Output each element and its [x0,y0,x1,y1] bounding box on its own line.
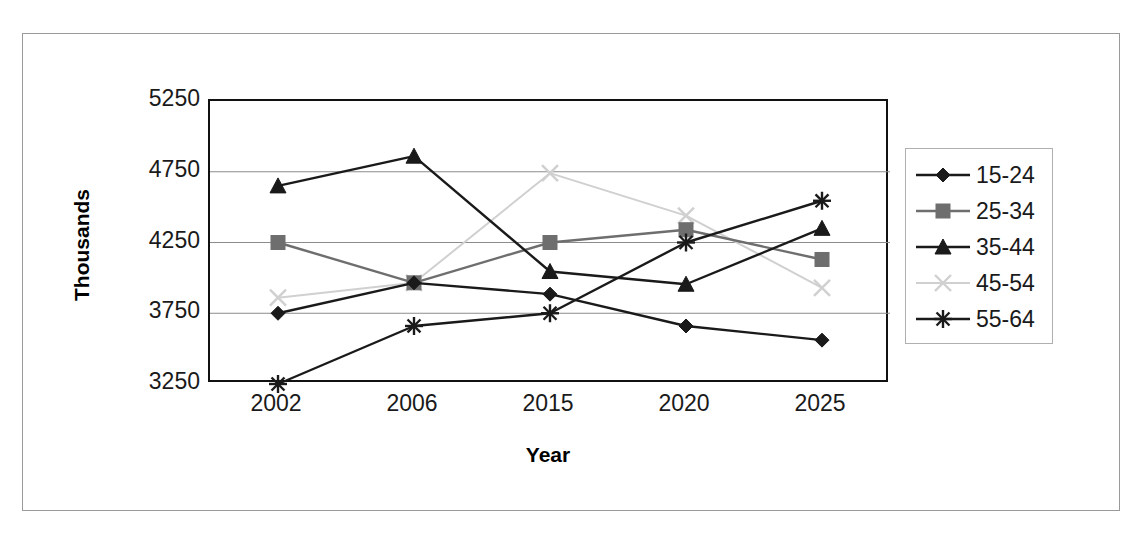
x-tick-label: 2020 [658,392,709,415]
legend-item-45-54[interactable]: 45-54 [914,265,1046,301]
data-point-marker [815,333,829,347]
legend-label: 55-64 [976,308,1035,331]
legend-marker-asterisk-icon [914,307,972,331]
data-point-marker [934,310,952,328]
data-point-marker [678,208,694,224]
y-axis-tick-labels: 52504750425037503250 [105,0,200,545]
plot-area [208,99,888,382]
data-point-marker [814,220,830,235]
legend-label: 25-34 [976,200,1035,223]
data-point-marker [677,234,695,252]
series-35-44 [270,148,830,291]
data-point-marker [936,168,950,182]
legend-marker-triangle-icon [914,235,972,259]
data-point-marker [543,236,557,250]
legend-label: 45-54 [976,272,1035,295]
legend-marker-diamond-icon [914,163,972,187]
y-tick-label: 3250 [112,370,200,393]
data-point-marker [406,148,422,163]
data-point-marker [814,280,830,296]
x-tick-label: 2025 [794,392,845,415]
y-axis-title: Thousands [62,150,102,340]
chart-page: Thousands 52504750425037503250 200220062… [0,0,1145,545]
legend-label: 35-44 [976,236,1035,259]
data-point-marker [405,317,423,335]
y-tick-label: 3750 [112,299,200,322]
y-axis-title-text: Thousands [70,189,94,301]
legend-label: 15-24 [976,164,1035,187]
chart-figure: Thousands 52504750425037503250 200220062… [0,0,1145,545]
data-point-marker [541,304,559,322]
plot-svg [210,101,890,384]
data-point-marker [815,252,829,266]
y-tick-label: 5250 [112,87,200,110]
data-point-marker [813,192,831,210]
x-axis-title: Year [208,443,888,467]
data-point-marker [936,204,950,218]
data-point-marker [271,306,285,320]
data-point-marker [542,165,558,181]
legend-item-25-34[interactable]: 25-34 [914,193,1046,229]
legend-item-15-24[interactable]: 15-24 [914,157,1046,193]
data-point-marker [679,319,693,333]
legend-marker-cross-x-icon [914,271,972,295]
y-tick-label: 4750 [112,158,200,181]
x-tick-label: 2002 [250,392,301,415]
series-25-34 [271,223,829,290]
x-axis-tick-labels: 20022006201520202025 [208,392,888,426]
y-tick-label: 4250 [112,229,200,252]
x-tick-label: 2006 [386,392,437,415]
data-point-marker [271,236,285,250]
x-tick-label: 2015 [522,392,573,415]
chart-legend: 15-2425-3435-4445-5455-64 [905,148,1053,344]
data-point-marker [543,287,557,301]
legend-marker-square-icon [914,199,972,223]
legend-item-35-44[interactable]: 35-44 [914,229,1046,265]
legend-item-55-64[interactable]: 55-64 [914,301,1046,337]
